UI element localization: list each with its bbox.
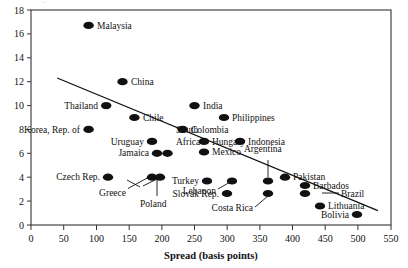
y-tick-4: 4 — [19, 172, 24, 183]
x-axis-title: Spread (basis points) — [164, 250, 258, 262]
x-tick-250: 250 — [187, 233, 202, 244]
label-turkey: Turkey — [172, 176, 199, 186]
label-hungary: Hungary — [212, 137, 245, 147]
y-tick-2: 2 — [19, 196, 24, 207]
label-malaysia: Malaysia — [97, 21, 133, 31]
data-point-costarica — [263, 190, 273, 197]
data-point-malaysia — [83, 22, 93, 29]
y-tick-16: 16 — [14, 28, 24, 39]
label-thailand: Thailand — [64, 101, 98, 111]
data-point-poland — [155, 174, 165, 181]
label-philippines: Philippines — [232, 113, 275, 123]
y-tick-10: 10 — [14, 100, 24, 111]
label-costarica: Costa Rica — [212, 203, 254, 213]
y-tick-18: 18 — [14, 5, 24, 16]
data-point-argentina — [263, 177, 273, 184]
x-tick-350: 350 — [252, 233, 267, 244]
data-point-chile — [129, 114, 139, 121]
label-south: South — [176, 125, 198, 135]
data-point-czech — [103, 174, 113, 181]
label-jamaica: Jamaica — [118, 148, 149, 158]
label-czech: Czech Rep. — [56, 172, 100, 182]
label-argentina: Argentina — [244, 144, 283, 154]
x-tick-500: 500 — [350, 233, 365, 244]
top-artifact: ·· — [42, 0, 47, 7]
data-point-brazil — [300, 190, 310, 197]
data-point-jamaica — [152, 150, 162, 157]
x-tick-100: 100 — [89, 233, 104, 244]
chart-canvas: ·· 0 2 4 6 8 10 12 14 16 18 — [0, 0, 408, 268]
x-tick-50: 50 — [59, 233, 69, 244]
x-axis: 0 50 100 150 200 250 300 350 400 450 500… — [29, 225, 399, 244]
data-point-lithuania — [315, 202, 325, 209]
data-point-southafrica — [162, 150, 172, 157]
data-point-india — [189, 102, 199, 109]
x-tick-400: 400 — [285, 233, 300, 244]
label-chile: Chile — [143, 113, 164, 123]
x-tick-0: 0 — [29, 233, 34, 244]
data-point-thailand — [101, 102, 111, 109]
y-tick-6: 6 — [19, 148, 24, 159]
data-point-philippines — [219, 114, 229, 121]
label-africa: Africa — [176, 137, 201, 147]
label-brazil: Brazil — [341, 189, 365, 199]
data-point-pakistan — [280, 174, 290, 181]
label-bolivia: Bolivia — [321, 210, 350, 220]
label-slovak: Slovak Rep. — [173, 189, 219, 199]
data-point-turkey — [202, 177, 212, 184]
data-point-uruguay — [147, 138, 157, 145]
x-tick-300: 300 — [220, 233, 235, 244]
label-greece: Greece — [99, 188, 126, 198]
data-point-hungary — [199, 138, 209, 145]
data-point-china — [117, 78, 127, 85]
label-mexico: Mexico — [212, 147, 241, 157]
y-tick-12: 12 — [14, 76, 24, 87]
data-point-bolivia — [352, 211, 362, 218]
scatter-chart: ·· 0 2 4 6 8 10 12 14 16 18 — [0, 0, 408, 268]
label-poland: Poland — [140, 199, 167, 209]
label-india: India — [203, 101, 223, 111]
x-tick-150: 150 — [122, 233, 137, 244]
data-point-lebanon — [227, 177, 237, 184]
data-point-barbados — [300, 182, 310, 189]
x-tick-450: 450 — [318, 233, 333, 244]
y-tick-14: 14 — [14, 52, 24, 63]
data-point-mexico — [199, 148, 209, 155]
x-tick-200: 200 — [154, 233, 169, 244]
data-point-korea — [83, 126, 93, 133]
data-point-slovak — [222, 190, 232, 197]
y-tick-0: 0 — [19, 220, 24, 231]
label-korea: Korea, Rep. of — [24, 125, 81, 135]
point-labels: Malaysia China Thailand India Chile Kore… — [24, 21, 365, 220]
y-axis: 0 2 4 6 8 10 12 14 16 18 — [14, 5, 31, 231]
x-tick-550: 550 — [384, 233, 399, 244]
label-china: China — [131, 77, 154, 87]
label-uruguay: Uruguay — [111, 137, 144, 147]
